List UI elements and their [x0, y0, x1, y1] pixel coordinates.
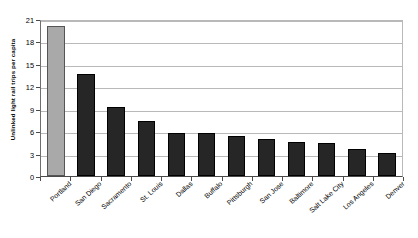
bar-slot [252, 21, 282, 176]
bar-series [41, 21, 402, 176]
y-axis-tick-labels: 036912151821 [0, 20, 40, 177]
bar-slot [221, 21, 251, 176]
bar-buffalo[interactable] [198, 133, 215, 176]
bar-slot [191, 21, 221, 176]
bar-pittsburgh[interactable] [228, 136, 245, 176]
bar-slot [71, 21, 101, 176]
y-axis-tick-label: 3 [10, 150, 34, 159]
bar-denver[interactable] [378, 153, 395, 176]
bar-san-diego[interactable] [77, 74, 94, 176]
y-axis-tick-label: 6 [10, 128, 34, 137]
bar-slot [101, 21, 131, 176]
bar-slot [161, 21, 191, 176]
x-axis-tick-label: Dallas [174, 180, 193, 198]
bar-slot [342, 21, 372, 176]
bar-slot [282, 21, 312, 176]
bar-chart: Unlinked light rail trips per capita 036… [0, 0, 418, 238]
x-axis-tick-label: Pittsburgh [226, 180, 254, 206]
y-axis-tick-label: 21 [10, 16, 34, 25]
bar-los-angeles[interactable] [348, 149, 365, 176]
bar-baltimore[interactable] [288, 142, 305, 176]
x-axis-tick-labels: PortlandSan DiegoSacramentoSt. LouisDall… [40, 180, 403, 238]
x-axis-tick-label: Los Angeles [342, 180, 375, 211]
plot-area [40, 20, 403, 177]
x-axis-tick-label: St. Louis [138, 180, 163, 203]
bar-slot [372, 21, 402, 176]
bar-salt-lake-city[interactable] [318, 143, 335, 176]
bar-slot [312, 21, 342, 176]
y-axis-tick-label: 9 [10, 105, 34, 114]
y-axis-tick-label: 18 [10, 38, 34, 47]
x-axis-tick-label: San Jose [258, 180, 284, 205]
x-axis-tick [403, 177, 404, 181]
bar-st-louis[interactable] [138, 121, 155, 176]
bar-sacramento[interactable] [107, 107, 124, 176]
x-axis-tick-label: Portland [48, 180, 72, 203]
x-axis-tick-label: Denver [384, 180, 405, 200]
y-axis-tick-label: 0 [10, 173, 34, 182]
bar-portland[interactable] [47, 26, 64, 176]
x-axis-tick-label: Baltimore [288, 180, 315, 205]
bar-san-jose[interactable] [258, 139, 275, 176]
bar-slot [41, 21, 71, 176]
y-axis-tick-label: 15 [10, 60, 34, 69]
bar-slot [131, 21, 161, 176]
y-axis-tick-label: 12 [10, 83, 34, 92]
bar-dallas[interactable] [168, 133, 185, 176]
x-axis-tick-label: Sacramento [100, 180, 133, 210]
x-axis-tick-label: Buffalo [203, 180, 224, 200]
x-axis-tick-label: San Diego [74, 180, 103, 207]
